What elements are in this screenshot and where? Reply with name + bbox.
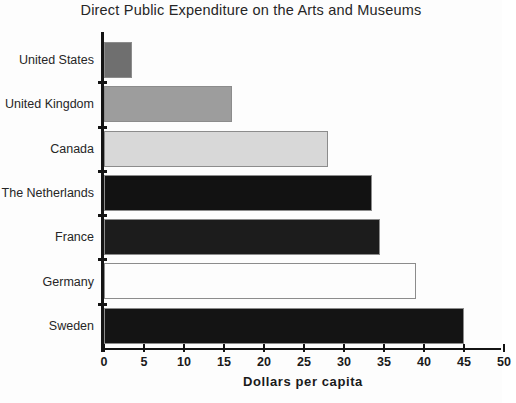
x-axis-tick: [463, 344, 465, 352]
x-axis-tick: [183, 344, 185, 352]
x-axis-label: Dollars per capita: [104, 374, 502, 389]
x-axis-tick-label: 35: [364, 355, 404, 369]
x-axis-tick: [503, 344, 505, 352]
bar-row: [104, 304, 502, 348]
y-axis-label-germany: Germany: [43, 275, 94, 289]
y-axis-tick: [98, 126, 107, 129]
x-axis-tick: [383, 344, 385, 352]
x-axis-tick: [263, 344, 265, 352]
chart-title: Direct Public Expenditure on the Arts an…: [0, 2, 502, 18]
y-axis-label-row: The Netherlands: [0, 171, 98, 215]
x-axis-tick-label: 15: [204, 355, 244, 369]
x-axis-tick-label: 0: [84, 355, 124, 369]
y-axis-category-labels: United States United Kingdom Canada The …: [0, 38, 98, 348]
x-axis-tick: [143, 344, 145, 352]
bar-row: [104, 127, 502, 171]
y-axis-label-united-kingdom: United Kingdom: [5, 97, 94, 111]
x-axis-tick: [223, 344, 225, 352]
x-axis-tick: [343, 344, 345, 352]
bar-row: [104, 82, 502, 126]
x-axis-tick: [303, 344, 305, 352]
y-axis-label-the-netherlands: The Netherlands: [2, 186, 94, 200]
y-axis-label-row: Sweden: [0, 304, 98, 348]
y-axis-label-row: United Kingdom: [0, 82, 98, 126]
y-axis-label-row: United States: [0, 38, 98, 82]
bar-row: [104, 215, 502, 259]
x-axis-tick-label: 40: [404, 355, 444, 369]
y-axis-tick: [98, 258, 107, 261]
y-axis-label-france: France: [55, 230, 94, 244]
x-axis-tick: [103, 344, 105, 352]
bar-row: [104, 171, 502, 215]
y-axis-tick: [98, 170, 107, 173]
bar-canada: [104, 131, 328, 167]
bar-united-kingdom: [104, 86, 232, 122]
x-axis-tick-label: 10: [164, 355, 204, 369]
y-axis-label-united-states: United States: [19, 53, 94, 67]
x-axis-tick-label: 30: [324, 355, 364, 369]
y-axis-tick: [98, 214, 107, 217]
bar-germany: [104, 263, 416, 299]
x-axis-tick-label: 5: [124, 355, 164, 369]
y-axis-label-row: Canada: [0, 127, 98, 171]
bar-row: [104, 259, 502, 303]
bar-france: [104, 219, 380, 255]
x-axis-line: [101, 348, 501, 350]
y-axis-label-canada: Canada: [50, 142, 94, 156]
bar-sweden: [104, 308, 464, 344]
bar-united-states: [104, 42, 132, 78]
bar-the-netherlands: [104, 175, 372, 211]
y-axis-tick: [98, 303, 107, 306]
x-axis-tick-label: 20: [244, 355, 284, 369]
x-axis-tick: [423, 344, 425, 352]
y-axis-label-row: Germany: [0, 259, 98, 303]
bar-row: [104, 38, 502, 82]
x-axis-tick-label: 50: [484, 355, 516, 369]
x-axis-tick-label: 25: [284, 355, 324, 369]
y-axis-tick: [98, 81, 107, 84]
plot-area: [104, 38, 502, 348]
y-axis-label-row: France: [0, 215, 98, 259]
y-axis-label-sweden: Sweden: [49, 319, 94, 333]
x-axis-tick-label: 45: [444, 355, 484, 369]
